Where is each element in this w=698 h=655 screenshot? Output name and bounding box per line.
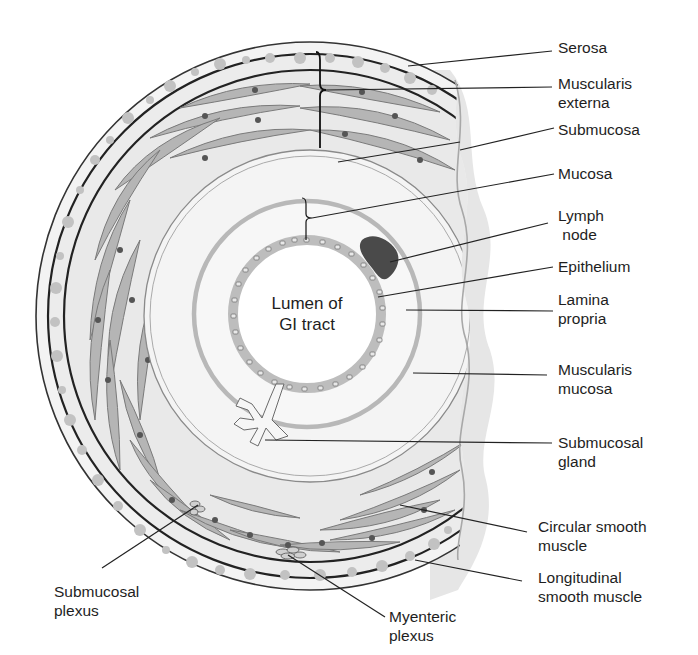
label-myenteric-plexus: Myenteric plexus (389, 607, 456, 645)
label-muscularis-mucosa: Muscularis mucosa (558, 360, 632, 398)
label-mucosa: Mucosa (558, 164, 612, 183)
label-lamina-propria: Lamina propria (558, 290, 609, 328)
label-submucosal-plexus: Submucosal plexus (54, 582, 139, 620)
label-submucosal-gland: Submucosal gland (558, 433, 643, 471)
label-epithelium: Epithelium (558, 257, 630, 276)
label-serosa: Serosa (558, 38, 607, 57)
label-submucosa: Submucosa (558, 120, 640, 139)
label-longitudinal-smooth-muscle: Longitudinal smooth muscle (538, 568, 642, 606)
lumen-label: Lumen of GI tract (252, 293, 362, 335)
label-muscularis-externa: Muscularis externa (558, 74, 632, 112)
label-lymph-node: Lymph node (558, 206, 604, 244)
label-circular-smooth-muscle: Circular smooth muscle (538, 517, 647, 555)
